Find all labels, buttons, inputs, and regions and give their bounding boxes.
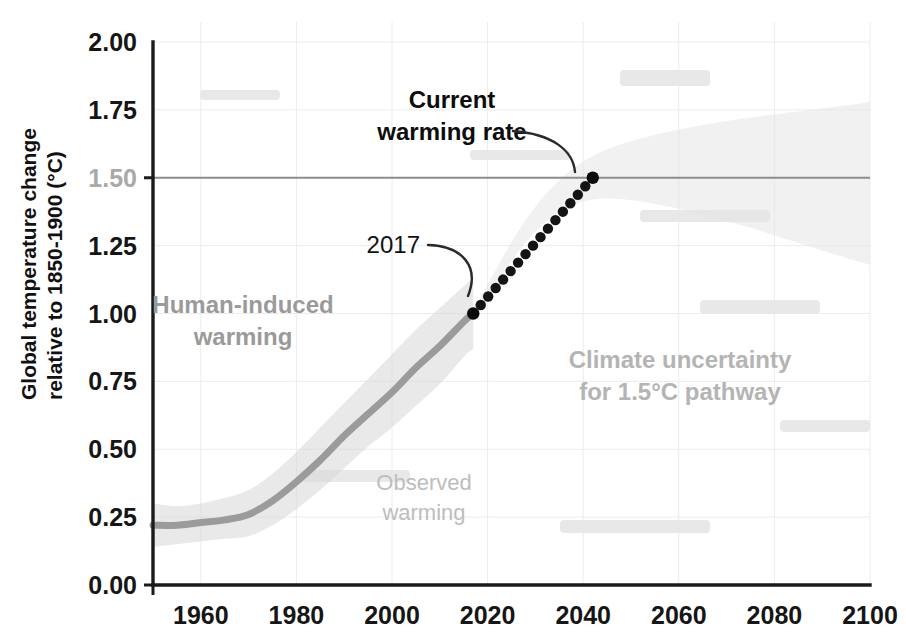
scan-speck [470, 150, 570, 160]
x-tick-label: 2080 [747, 601, 803, 629]
y-tick-label: 0.00 [88, 571, 137, 599]
y-axis-title-line-1: Global temperature change [17, 128, 40, 400]
current-warming-rate-label-line-2: warming rate [376, 118, 526, 145]
scan-speck [560, 520, 710, 533]
x-tick-label: 2040 [555, 601, 611, 629]
projection-dot [520, 249, 530, 259]
projection-dot [535, 232, 545, 242]
y-tick-label: 2.00 [88, 28, 137, 56]
projection-dot [543, 223, 553, 233]
projection-dot [505, 266, 515, 276]
scan-speck [700, 300, 820, 314]
year-2017-label: 2017 [367, 231, 420, 258]
projection-dot [498, 274, 508, 284]
projection-dot [573, 190, 583, 200]
projection-dot [483, 291, 493, 301]
x-tick-label: 2000 [364, 601, 420, 629]
projection-dot [558, 206, 568, 216]
x-tick-label: 2060 [651, 601, 707, 629]
y-axis-tick-labels: 0.000.250.500.751.001.251.501.752.00 [88, 28, 137, 599]
projection-dot [528, 240, 538, 250]
y-tick-label: 1.25 [88, 232, 137, 260]
chart-svg: 0.000.250.500.751.001.251.501.752.00 196… [0, 0, 906, 638]
y-tick-label: 0.75 [88, 367, 137, 395]
human-induced-warming-label-line-2: warming [193, 323, 293, 350]
current-warming-rate-label-line-1: Current [409, 86, 496, 113]
x-tick-label: 1980 [269, 601, 325, 629]
y-tick-label: 1.00 [88, 300, 137, 328]
projection-dot [565, 198, 575, 208]
projection-dot [550, 215, 560, 225]
y-tick-label: 1.50 [88, 164, 137, 192]
y-axis-title-line-2: relative to 1850-1900 (°C) [43, 151, 66, 400]
y-tick-label: 0.25 [88, 503, 137, 531]
marker-point-2017 [467, 307, 479, 319]
marker-point-2042 [587, 172, 599, 184]
y-tick-label: 0.50 [88, 435, 137, 463]
x-tick-label: 2100 [842, 601, 898, 629]
projection-dot [513, 257, 523, 267]
observed-warming-label-line-1: Observed [376, 470, 471, 495]
observed-warming-label-line-2: warming [381, 500, 465, 525]
scan-speck [620, 70, 710, 86]
climate-uncertainty-label-line-2: for 1.5°C pathway [579, 378, 781, 405]
scan-speck [200, 90, 280, 100]
projection-dot [490, 283, 500, 293]
climate-warming-chart: 0.000.250.500.751.001.251.501.752.00 196… [0, 0, 906, 638]
x-tick-label: 2020 [460, 601, 516, 629]
y-tick-label: 1.75 [88, 96, 137, 124]
scan-speck [780, 420, 870, 432]
x-tick-label: 1960 [173, 601, 229, 629]
climate-uncertainty-label-line-1: Climate uncertainty [569, 346, 792, 373]
human-induced-warming-label-line-1: Human-induced [152, 291, 333, 318]
